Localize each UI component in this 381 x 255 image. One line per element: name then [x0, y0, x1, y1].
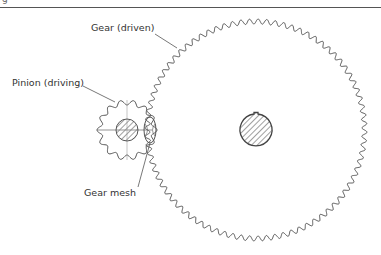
label-driving-pinion: Pinion (driving) — [12, 77, 84, 88]
leader-line-driven-gear — [155, 34, 177, 48]
leader-line-pinion — [83, 86, 115, 102]
gear-diagram — [0, 0, 381, 255]
leader-line-gear-mesh — [138, 143, 150, 187]
label-gear-mesh: Gear mesh — [84, 187, 136, 198]
gear-shaft-icon — [240, 113, 272, 146]
label-driven-gear: Gear (driven) — [91, 22, 154, 33]
pinion-shaft-icon — [116, 119, 138, 141]
